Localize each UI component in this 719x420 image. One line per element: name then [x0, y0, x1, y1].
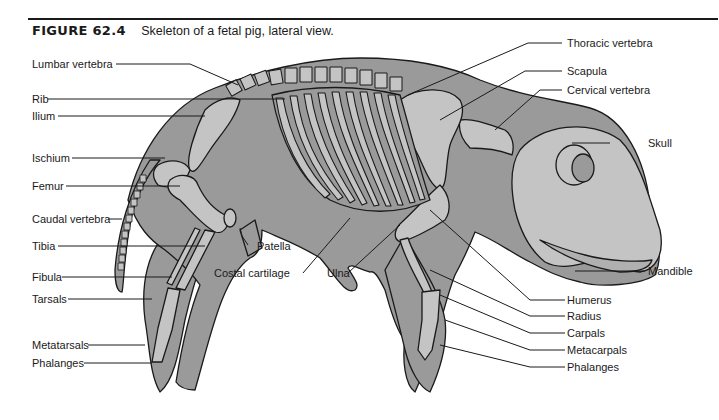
- label-skull: Skull: [648, 137, 672, 149]
- label-metatarsals: Metatarsals: [32, 339, 89, 351]
- label-fibula: Fibula: [32, 271, 62, 283]
- label-metacarpals: Metacarpals: [567, 344, 627, 356]
- label-phalanges-fore: Phalanges: [567, 361, 619, 373]
- label-radius: Radius: [567, 310, 601, 322]
- label-tarsals: Tarsals: [32, 293, 67, 305]
- label-carpals: Carpals: [567, 327, 605, 339]
- label-cervical-vertebra: Cervical vertebra: [567, 84, 650, 96]
- label-ilium: Ilium: [32, 110, 55, 122]
- label-lumbar-vertebra: Lumbar vertebra: [32, 58, 113, 70]
- label-mandible: Mandible: [648, 265, 693, 277]
- label-femur: Femur: [32, 180, 64, 192]
- label-caudal-vertebra: Caudal vertebra: [32, 213, 110, 225]
- eye-socket: [572, 154, 594, 182]
- label-tibia: Tibia: [32, 240, 55, 252]
- skull-bone: [512, 127, 662, 272]
- label-rib: Rib: [32, 93, 49, 105]
- label-humerus: Humerus: [567, 294, 612, 306]
- label-phalanges-hind: Phalanges: [32, 357, 84, 369]
- label-costal-cartilage: Costal cartilage: [214, 267, 290, 279]
- label-thoracic-vertebra: Thoracic vertebra: [567, 37, 653, 49]
- label-ulna: Ulna: [327, 267, 350, 279]
- patella-bone: [224, 209, 236, 227]
- label-ischium: Ischium: [32, 152, 70, 164]
- label-patella: Patella: [257, 240, 291, 252]
- label-scapula: Scapula: [567, 65, 607, 77]
